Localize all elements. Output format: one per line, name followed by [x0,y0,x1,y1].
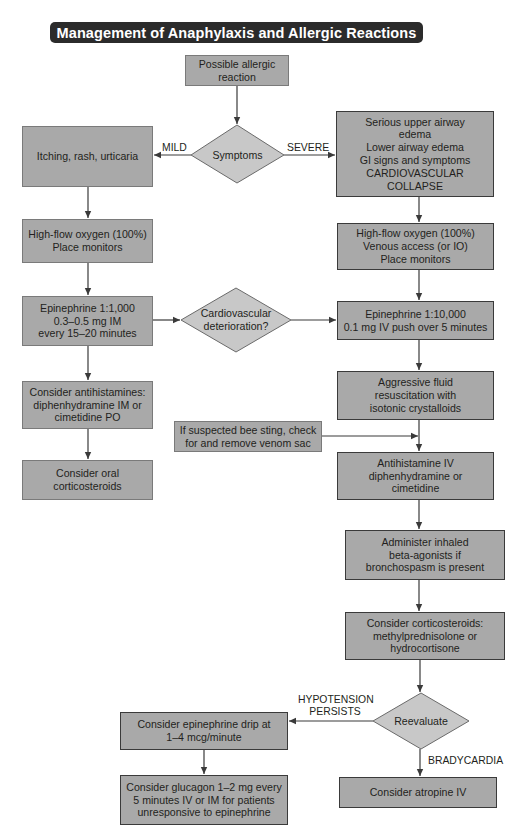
iv-corticosteroids-box: Consider corticosteroids: methylpredniso… [345,612,505,660]
mild-symptoms-box: Itching, rash, urticaria [22,126,153,187]
hypotension-label: HYPOTENSION PERSISTS [298,694,372,719]
mild-antihistamines-box: Consider antihistamines: diphenhydramine… [22,381,153,429]
mild-label: MILD [162,142,187,154]
bradycardia-label: BRADYCARDIA [428,755,503,767]
beta-agonists-box: Administer inhaled beta-agonists if bron… [345,530,505,580]
reevaluate-decision: Reevaluate [373,711,469,731]
severe-label: SEVERE [287,142,329,154]
severe-epinephrine-box: Epinephrine 1:10,000 0.1 mg IV push over… [337,301,494,340]
oral-corticosteroids-box: Consider oral corticosteroids [22,460,153,500]
mild-epinephrine-box: Epinephrine 1:1,000 0.3–0.5 mg IM every … [22,296,153,346]
mild-oxygen-box: High-flow oxygen (100%) Place monitors [22,219,153,263]
severe-antihistamine-box: Antihistamine IV diphenhydramine or cime… [337,452,494,500]
atropine-box: Consider atropine IV [339,777,497,808]
bee-sting-box: If suspected bee sting, check for and re… [174,421,322,452]
fluid-resuscitation-box: Aggressive fluid resuscitation with isot… [337,371,494,420]
severe-symptoms-box: Serious upper airway edema Lower airway … [336,111,494,197]
epinephrine-drip-box: Consider epinephrine drip at 1–4 mcg/min… [120,712,288,750]
severe-oxygen-box: High-flow oxygen (100%) Venous access (o… [337,223,494,270]
start-box: Possible allergic reaction [185,55,289,86]
symptoms-decision: Symptoms [191,145,284,165]
cardio-deterioration-decision: Cardiovascular deterioration? [181,307,291,333]
glucagon-box: Consider glucagon 1–2 mg every 5 minutes… [120,775,288,825]
